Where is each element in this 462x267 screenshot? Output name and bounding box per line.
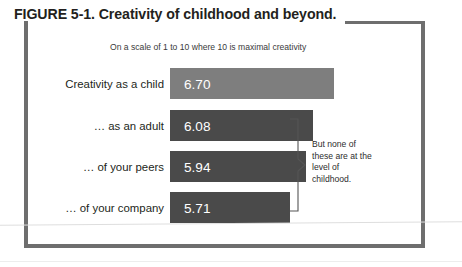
bar-value-label: 6.08 <box>184 118 210 133</box>
bar-value-label: 5.71 <box>184 200 210 215</box>
bar-row: … of your company 5.71 <box>28 192 328 223</box>
bar-category-label: … as an adult <box>28 120 188 132</box>
bar-shape: 6.70 <box>170 68 334 99</box>
bar-category-label: … of your company <box>28 202 188 214</box>
title-rule-divider <box>345 21 425 24</box>
curly-brace-icon <box>288 118 306 212</box>
bar-category-label: … of your peers <box>28 161 188 173</box>
bar-row: … as an adult 6.08 <box>28 110 328 141</box>
bar-value-label: 5.94 <box>184 159 210 174</box>
figure-frame-right-edge <box>421 21 425 248</box>
figure-frame-bottom-edge <box>24 244 425 248</box>
scan-artifact-line-2 <box>0 261 462 262</box>
chart-annotation-note: But none of these are at the level of ch… <box>312 139 374 185</box>
bar-shape: 5.71 <box>170 192 290 223</box>
page-title: FIGURE 5-1. Creativity of childhood and … <box>14 6 336 22</box>
bar-value-label: 6.70 <box>184 76 210 91</box>
bar-shape: 5.94 <box>170 151 306 182</box>
chart-subtitle: On a scale of 1 to 10 where 10 is maxima… <box>110 42 306 52</box>
bar-row: … of your peers 5.94 <box>28 151 328 182</box>
bar-row: Creativity as a child 6.70 <box>28 68 328 99</box>
bar-category-label: Creativity as a child <box>28 78 188 90</box>
figure-screenshot: FIGURE 5-1. Creativity of childhood and … <box>0 0 462 267</box>
